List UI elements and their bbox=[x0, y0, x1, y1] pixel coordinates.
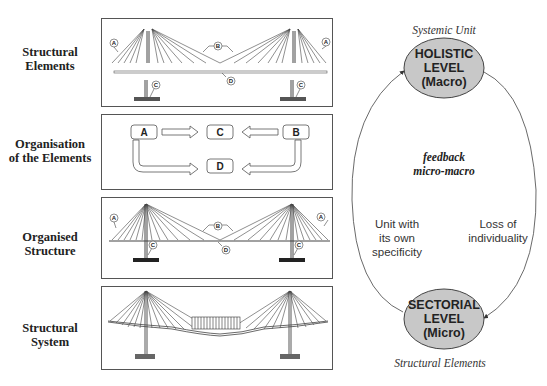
feedback-line: micro-macro bbox=[394, 164, 494, 178]
right-text-line: individuality bbox=[458, 231, 538, 245]
svg-text:A: A bbox=[319, 214, 324, 220]
label-line: Structural bbox=[0, 45, 100, 59]
structural-elements-caption: Structural Elements bbox=[380, 357, 500, 369]
svg-text:D: D bbox=[224, 247, 229, 253]
holistic-line: HOLISTIC bbox=[404, 47, 484, 61]
footing-left bbox=[135, 354, 155, 359]
footing-right bbox=[280, 97, 306, 101]
label-line: Organised bbox=[0, 230, 100, 244]
panel-structural-elements: A B A C D C bbox=[101, 18, 333, 107]
organisation-flow-diagram: A C B D bbox=[102, 115, 334, 191]
row-label-organisation: Organisation of the Elements bbox=[0, 137, 100, 165]
left-text-line: Unit with bbox=[362, 217, 432, 231]
sectorial-line: LEVEL bbox=[404, 312, 484, 326]
svg-text:A: A bbox=[324, 39, 329, 45]
svg-text:C: C bbox=[154, 82, 159, 88]
row-label-structural-system: Structural System bbox=[0, 321, 100, 349]
svg-text:B: B bbox=[216, 223, 221, 229]
central-truss-span bbox=[192, 317, 240, 329]
bridge-elements-drawing: A B A C D C bbox=[102, 19, 334, 108]
svg-text:D: D bbox=[229, 78, 234, 84]
svg-text:D: D bbox=[216, 161, 223, 172]
svg-text:C: C bbox=[297, 242, 302, 248]
panel-organisation: A C B D bbox=[101, 114, 333, 190]
holistic-line: (Macro) bbox=[404, 75, 484, 89]
right-text-line: Loss of bbox=[458, 217, 538, 231]
label-line: Structure bbox=[0, 244, 100, 258]
label-line: System bbox=[0, 335, 100, 349]
svg-text:C: C bbox=[151, 242, 156, 248]
panel-organised-structure: A B A C D C bbox=[101, 197, 333, 279]
footing-right bbox=[280, 354, 300, 359]
svg-text:B: B bbox=[292, 127, 299, 138]
holistic-level-label: HOLISTIC LEVEL (Macro) bbox=[404, 47, 484, 89]
label-line: Organisation bbox=[0, 137, 100, 151]
label-line: Elements bbox=[0, 59, 100, 73]
feedback-micro-macro-label: feedback micro-macro bbox=[394, 150, 494, 178]
footing-left bbox=[133, 258, 159, 262]
svg-text:A: A bbox=[112, 215, 117, 221]
holistic-line: LEVEL bbox=[404, 61, 484, 75]
label-line: of the Elements bbox=[0, 151, 100, 165]
svg-text:C: C bbox=[299, 82, 304, 88]
svg-text:C: C bbox=[216, 127, 223, 138]
left-text-line: specificity bbox=[362, 245, 432, 259]
footing-left bbox=[134, 97, 160, 101]
structural-system-drawing bbox=[102, 287, 334, 371]
row-label-organised-structure: Organised Structure bbox=[0, 230, 100, 258]
panel-structural-system bbox=[101, 286, 333, 370]
label-line: Structural bbox=[0, 321, 100, 335]
sectorial-level-label: SECTORIAL LEVEL (Micro) bbox=[404, 298, 484, 340]
loss-individuality-text: Loss of individuality bbox=[458, 217, 538, 245]
feedback-line: feedback bbox=[394, 150, 494, 164]
svg-text:B: B bbox=[216, 43, 221, 49]
svg-text:A: A bbox=[112, 40, 117, 46]
sectorial-line: SECTORIAL bbox=[404, 298, 484, 312]
footing-right bbox=[279, 258, 305, 262]
svg-text:A: A bbox=[140, 127, 147, 138]
row-label-structural-elements: Structural Elements bbox=[0, 45, 100, 73]
unit-specificity-text: Unit with its own specificity bbox=[362, 217, 432, 259]
left-text-line: its own bbox=[362, 231, 432, 245]
organised-bridge-drawing: A B A C D C bbox=[102, 198, 334, 280]
systemic-unit-caption: Systemic Unit bbox=[394, 24, 494, 36]
sectorial-line: (Micro) bbox=[404, 326, 484, 340]
